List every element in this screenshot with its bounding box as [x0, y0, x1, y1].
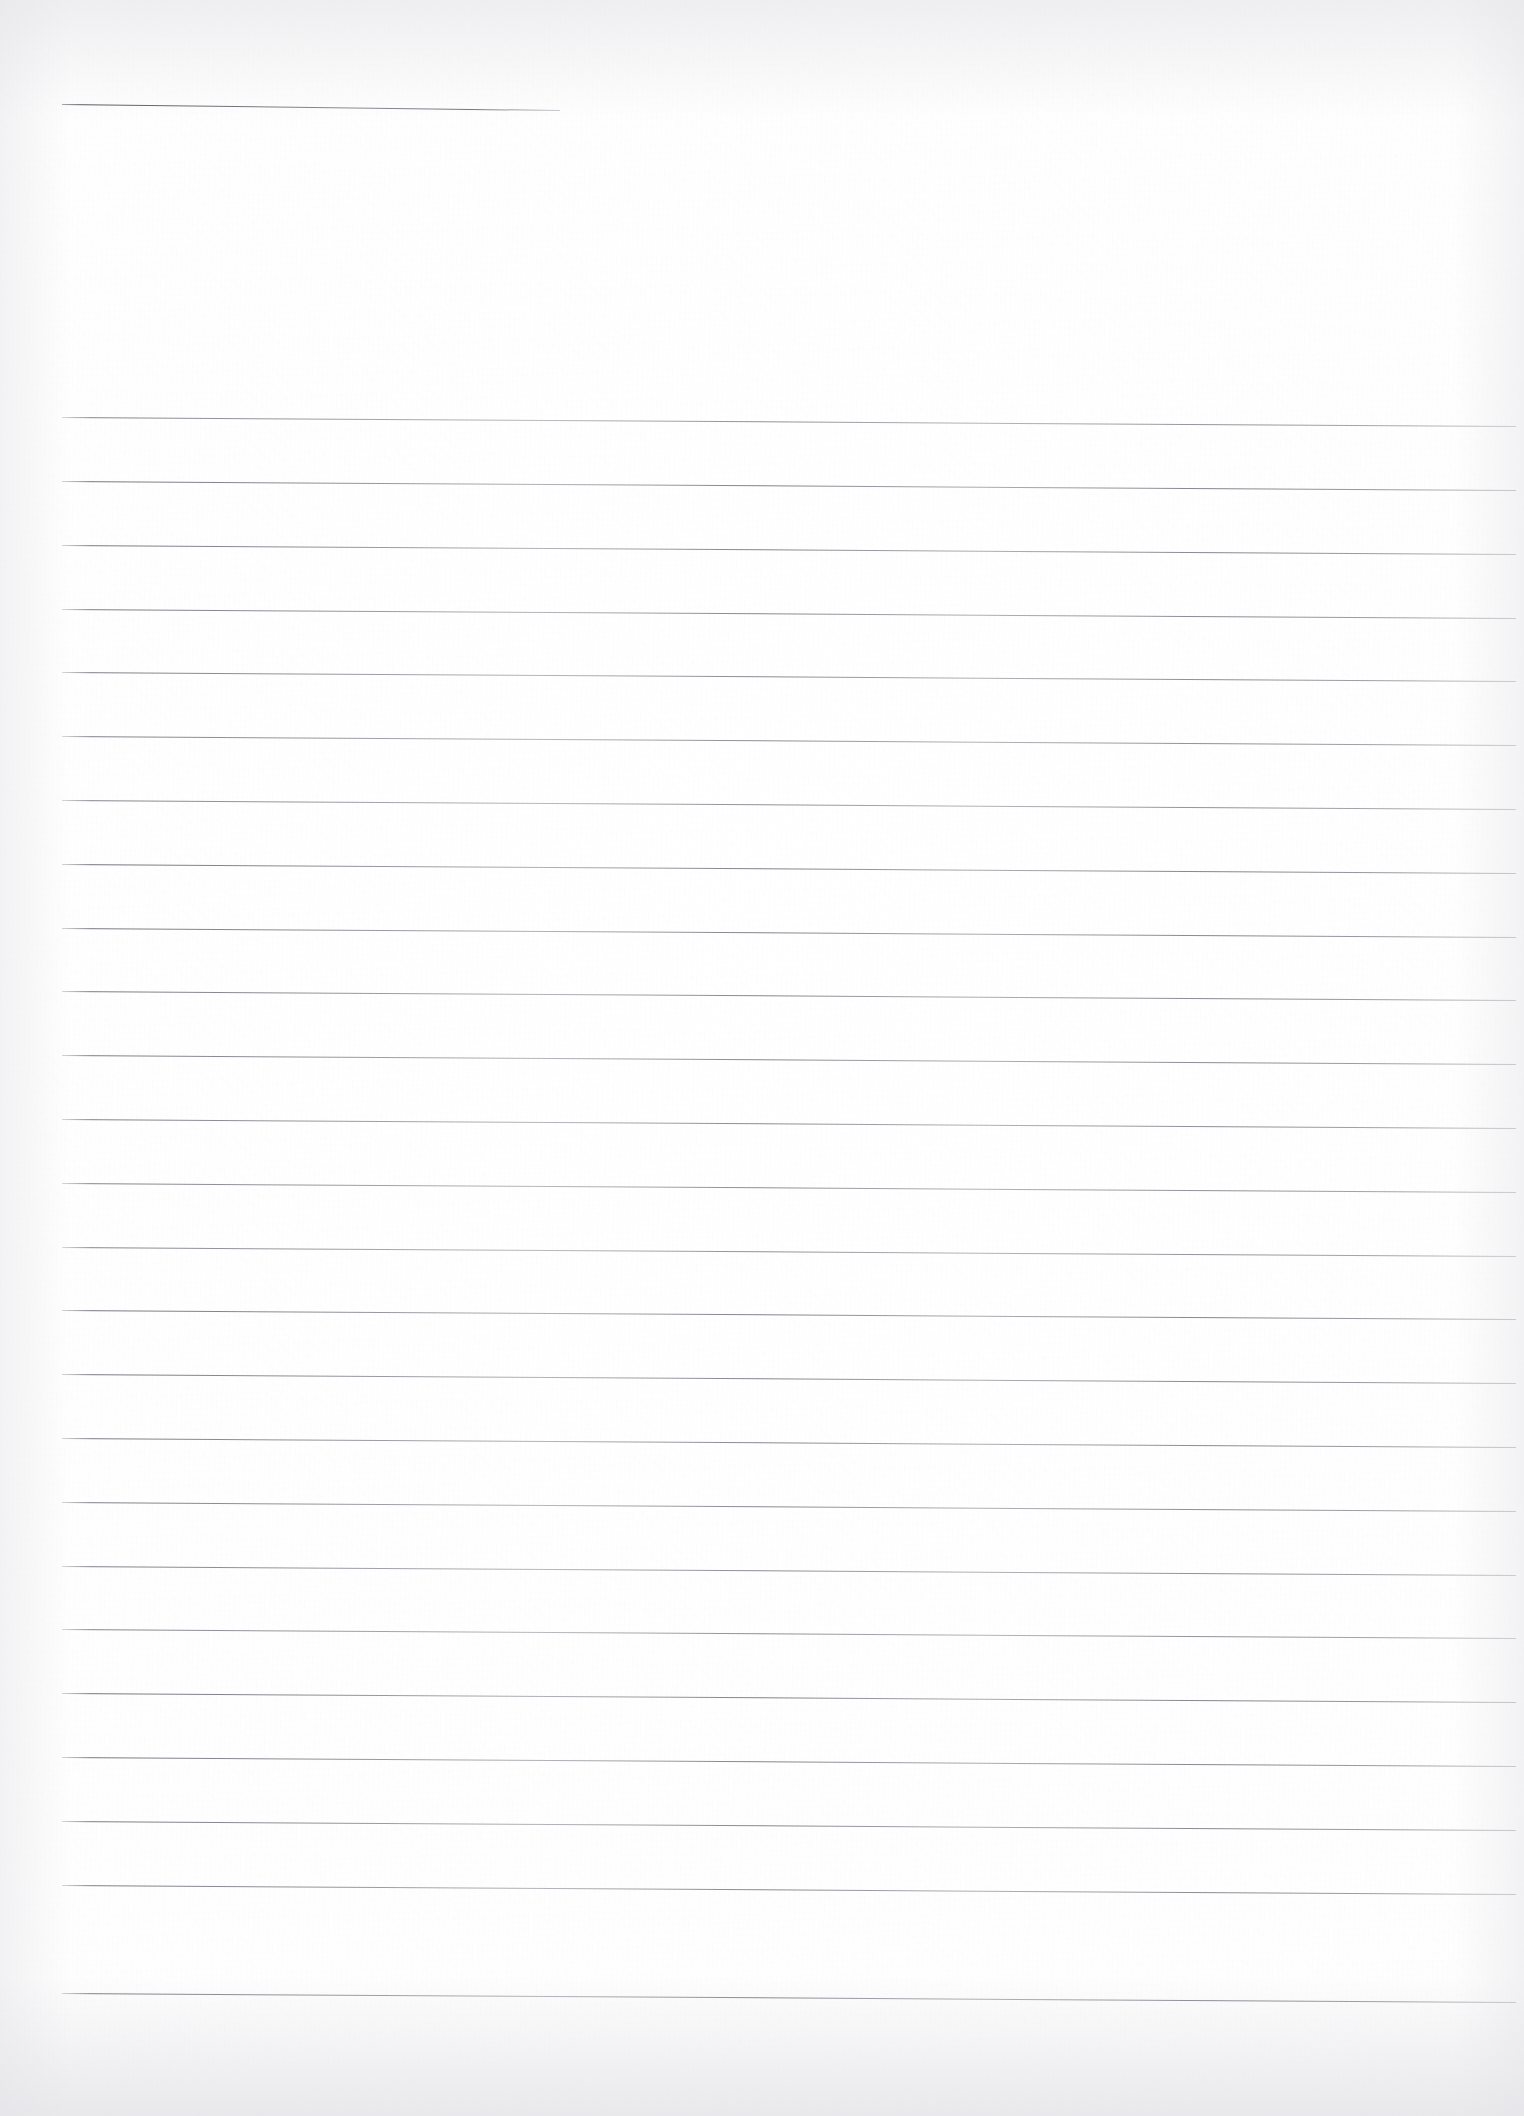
ruled-writing-area	[0, 0, 1524, 2116]
rule-line	[62, 1055, 1516, 1065]
rule-line	[62, 1629, 1516, 1639]
rule-line	[62, 1438, 1516, 1448]
rule-line	[62, 1821, 1516, 1831]
rule-line	[62, 1993, 1516, 2003]
rule-line	[62, 928, 1516, 938]
rule-line	[62, 800, 1516, 810]
rule-line	[62, 1310, 1516, 1320]
rule-line	[62, 1885, 1516, 1895]
rule-line	[62, 481, 1516, 491]
rule-line	[62, 1693, 1516, 1703]
rule-line	[62, 417, 1516, 427]
rule-line	[62, 1183, 1516, 1193]
rule-line	[62, 991, 1516, 1001]
rule-line	[62, 1566, 1516, 1576]
rule-line	[62, 1757, 1516, 1767]
notebook-page	[0, 0, 1524, 2116]
rule-line	[62, 1247, 1516, 1257]
rule-line	[62, 609, 1516, 619]
rule-line	[62, 1119, 1516, 1129]
rule-line	[62, 736, 1516, 746]
rule-line	[62, 1374, 1516, 1384]
rule-line	[62, 1502, 1516, 1512]
rule-line	[62, 864, 1516, 874]
rule-line	[62, 545, 1516, 555]
rule-line	[62, 672, 1516, 682]
